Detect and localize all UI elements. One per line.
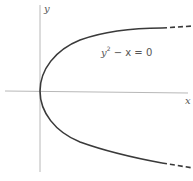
equation-label: y2 − x = 0 [100, 45, 152, 58]
parabola-lower-branch [40, 91, 162, 163]
parabola-upper-dashed-extension [162, 26, 193, 28]
parabola-upper-branch [40, 28, 162, 91]
parabola-lower-dashed-extension [162, 163, 193, 168]
parabola-diagram: y x y2 − x = 0 [0, 0, 193, 181]
diagram-canvas: y x y2 − x = 0 [0, 0, 193, 181]
x-axis-label: x [185, 95, 191, 106]
y-axis-label: y [43, 3, 50, 14]
equation-rest: − x = 0 [110, 47, 152, 58]
x-axis [5, 91, 188, 93]
